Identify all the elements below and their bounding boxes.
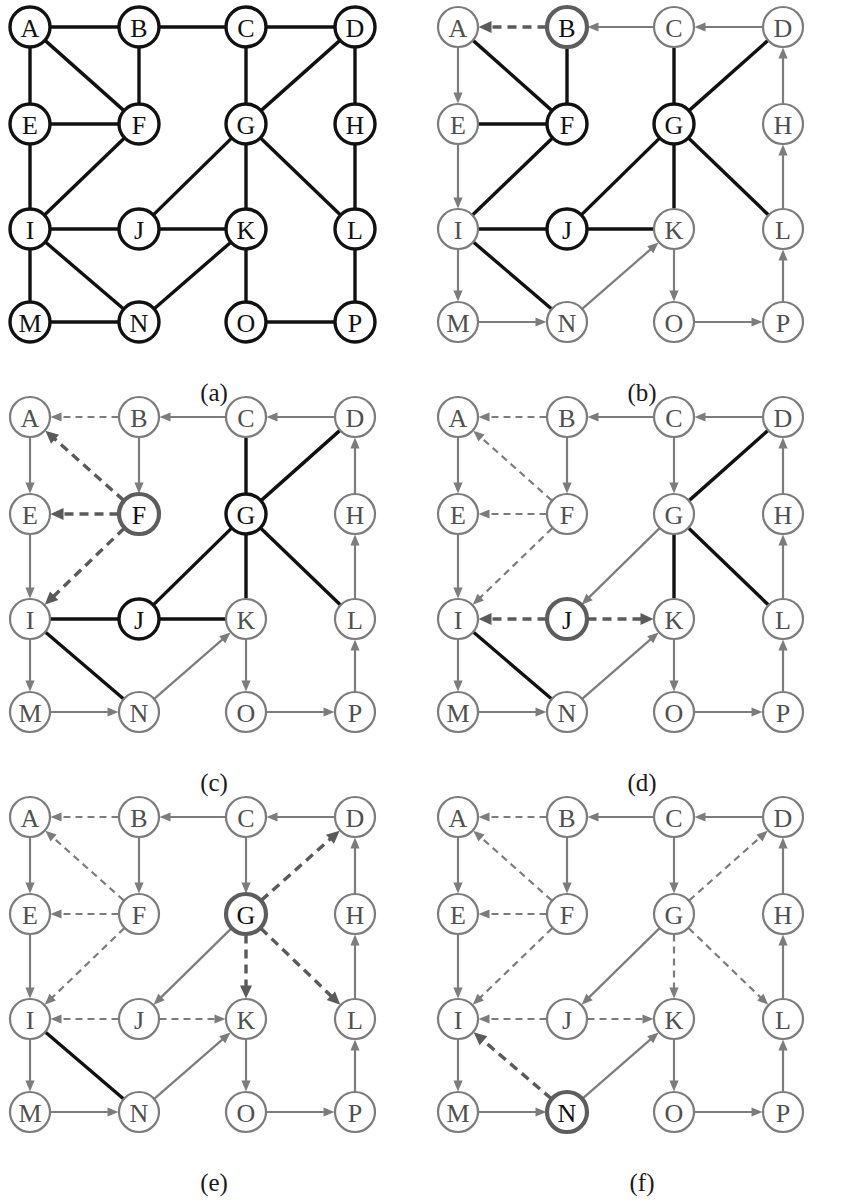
node-B[interactable]: B [547,397,587,437]
node-C[interactable]: C [654,797,694,837]
node-G[interactable]: G [226,494,266,534]
node-J[interactable]: J [119,999,159,1039]
node-F-highlighted[interactable]: F [119,494,159,534]
node-I[interactable]: I [10,209,50,249]
node-H[interactable]: H [763,494,803,534]
node-label-K: K [237,1006,256,1035]
node-M[interactable]: M [438,692,478,732]
node-M[interactable]: M [10,1092,50,1132]
node-F[interactable]: F [547,894,587,934]
node-M[interactable]: M [10,302,50,342]
node-P[interactable]: P [335,1092,375,1132]
node-C[interactable]: C [226,397,266,437]
node-E[interactable]: E [438,894,478,934]
node-E[interactable]: E [10,104,50,144]
node-I[interactable]: I [438,599,478,639]
node-N[interactable]: N [547,692,587,732]
node-P[interactable]: P [335,692,375,732]
node-I[interactable]: I [438,999,478,1039]
node-F[interactable]: F [547,104,587,144]
node-I[interactable]: I [10,599,50,639]
node-G[interactable]: G [654,104,694,144]
node-D[interactable]: D [763,797,803,837]
node-G[interactable]: G [654,894,694,934]
node-L[interactable]: L [335,999,375,1039]
node-label-F: F [560,501,574,530]
node-A[interactable]: A [438,7,478,47]
node-D[interactable]: D [763,397,803,437]
node-A[interactable]: A [10,397,50,437]
node-K[interactable]: K [226,599,266,639]
node-K[interactable]: K [654,599,694,639]
node-F[interactable]: F [119,894,159,934]
node-E[interactable]: E [438,104,478,144]
node-K[interactable]: K [226,209,266,249]
node-O[interactable]: O [226,1092,266,1132]
node-B[interactable]: B [119,7,159,47]
node-M[interactable]: M [10,692,50,732]
node-N[interactable]: N [547,302,587,342]
node-P[interactable]: P [763,692,803,732]
node-C[interactable]: C [654,7,694,47]
node-M[interactable]: M [438,302,478,342]
node-J[interactable]: J [119,209,159,249]
node-K[interactable]: K [654,209,694,249]
node-J[interactable]: J [547,209,587,249]
node-O[interactable]: O [654,692,694,732]
node-L[interactable]: L [763,209,803,249]
node-A[interactable]: A [438,797,478,837]
node-H[interactable]: H [763,104,803,144]
node-C[interactable]: C [226,797,266,837]
node-H[interactable]: H [335,104,375,144]
node-B-highlighted[interactable]: B [547,7,587,47]
node-I[interactable]: I [10,999,50,1039]
node-label-L: L [347,606,363,635]
node-N-highlighted[interactable]: N [547,1092,587,1132]
node-G[interactable]: G [226,104,266,144]
node-N[interactable]: N [119,1092,159,1132]
node-N[interactable]: N [119,692,159,732]
node-L[interactable]: L [763,999,803,1039]
node-B[interactable]: B [119,797,159,837]
node-G[interactable]: G [654,494,694,534]
node-J[interactable]: J [119,599,159,639]
node-N[interactable]: N [119,302,159,342]
node-L[interactable]: L [763,599,803,639]
node-K[interactable]: K [654,999,694,1039]
node-E[interactable]: E [10,894,50,934]
node-C[interactable]: C [654,397,694,437]
node-P[interactable]: P [335,302,375,342]
arrowhead-I-M [25,681,34,692]
node-K[interactable]: K [226,999,266,1039]
node-P[interactable]: P [763,302,803,342]
node-O[interactable]: O [654,302,694,342]
node-B[interactable]: B [547,797,587,837]
node-G-highlighted[interactable]: G [226,894,266,934]
node-I[interactable]: I [438,209,478,249]
node-O[interactable]: O [654,1092,694,1132]
node-A[interactable]: A [10,797,50,837]
node-J-highlighted[interactable]: J [547,599,587,639]
node-D[interactable]: D [335,7,375,47]
node-D[interactable]: D [763,7,803,47]
node-D[interactable]: D [335,797,375,837]
node-O[interactable]: O [226,302,266,342]
node-F[interactable]: F [547,494,587,534]
node-O[interactable]: O [226,692,266,732]
node-D[interactable]: D [335,397,375,437]
node-M[interactable]: M [438,1092,478,1132]
node-L[interactable]: L [335,599,375,639]
node-L[interactable]: L [335,209,375,249]
node-H[interactable]: H [335,494,375,534]
node-A[interactable]: A [10,7,50,47]
node-J[interactable]: J [547,999,587,1039]
node-A[interactable]: A [438,397,478,437]
node-H[interactable]: H [335,894,375,934]
node-F[interactable]: F [119,104,159,144]
node-C[interactable]: C [226,7,266,47]
node-P[interactable]: P [763,1092,803,1132]
node-E[interactable]: E [10,494,50,534]
node-H[interactable]: H [763,894,803,934]
node-E[interactable]: E [438,494,478,534]
node-B[interactable]: B [119,397,159,437]
